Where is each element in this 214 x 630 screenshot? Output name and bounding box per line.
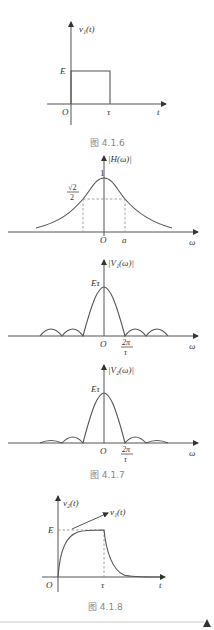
- peak-label: 1: [100, 168, 105, 178]
- peak-label: Eτ: [90, 384, 100, 394]
- x-axis-label: ω: [189, 237, 195, 247]
- figure-4-1-6: v₁(t) E O τ t 图 4.1.6: [47, 22, 166, 148]
- v1-annotation: v₁(t): [110, 507, 126, 517]
- y-axis-label: |V₂(ω)|: [108, 365, 134, 375]
- y-axis-label: v₁(t): [79, 24, 95, 34]
- level-label-E: E: [59, 66, 66, 76]
- triangle-marker-icon: [203, 619, 211, 627]
- figure-caption: 图 4.1.6: [90, 138, 125, 148]
- origin-label: O: [100, 446, 107, 456]
- half-label-den: 2: [70, 193, 74, 202]
- tick-den: τ: [124, 348, 128, 357]
- x-axis-label: t: [159, 580, 162, 590]
- origin-label: O: [62, 107, 69, 117]
- figure-4-1-8: v₂(t) v₁(t) E O τ t 图 4.1.8: [42, 496, 165, 612]
- origin-label: O: [100, 235, 107, 245]
- v2-curve: [58, 530, 160, 577]
- x-axis-label: ω: [189, 448, 195, 458]
- y-axis-label: |V₁(ω)|: [108, 258, 134, 268]
- tick-den: τ: [124, 455, 128, 464]
- level-label-E: E: [47, 525, 54, 535]
- figure-caption: 图 4.1.8: [88, 602, 123, 612]
- origin-label: O: [46, 580, 53, 590]
- tick-num: 2π: [122, 445, 131, 454]
- half-label-num: √2: [68, 183, 76, 192]
- tick-num: 2π: [122, 338, 131, 347]
- origin-label: O: [100, 339, 107, 349]
- tau-label: τ: [101, 580, 105, 590]
- figure-4-1-7-V2: |V₂(ω)| Eτ O 2π τ ω 图 4.1.7: [8, 365, 198, 480]
- x-axis-label: ω: [189, 341, 195, 351]
- annotation-arrow: [72, 513, 108, 529]
- a-label: a: [122, 235, 127, 245]
- peak-label: Eτ: [90, 278, 100, 288]
- figure-caption: 图 4.1.7: [90, 470, 125, 480]
- tau-label: τ: [107, 107, 111, 117]
- figure-4-1-7-V1: |V₁(ω)| Eτ O 2π τ ω: [8, 258, 198, 357]
- x-axis-label: t: [157, 107, 160, 117]
- y-axis-label: v₂(t): [63, 498, 79, 508]
- rect-pulse-curve: [71, 71, 110, 104]
- figure-4-1-7-H: |H(ω)| 1 √2 2 O a ω: [8, 154, 198, 247]
- y-axis-label: |H(ω)|: [108, 154, 132, 164]
- figure-canvas: v₁(t) E O τ t 图 4.1.6 |H(ω)| 1 √2 2 O a …: [0, 0, 214, 630]
